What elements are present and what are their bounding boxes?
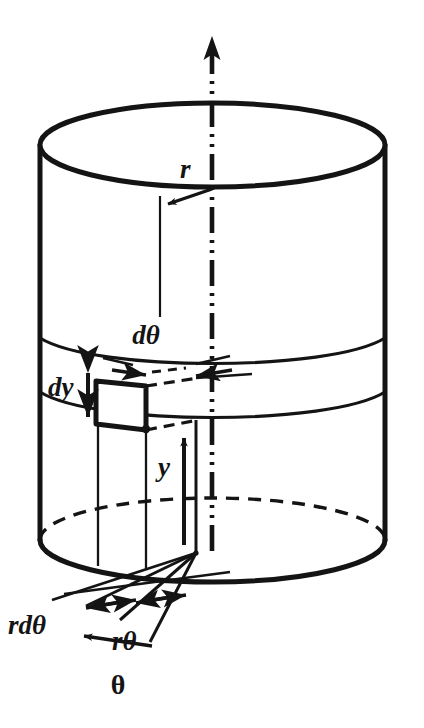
- element-bottom-receding-edge: [146, 420, 198, 430]
- element-top-receding-edge: [146, 378, 198, 386]
- radius-arrow-line: [168, 189, 212, 204]
- cylinder-coordinate-diagram: r: [0, 0, 424, 728]
- element-front-face: [96, 381, 146, 430]
- d-theta-label: dθ: [132, 320, 160, 350]
- r-theta-dim-line-right: [146, 595, 186, 601]
- y-label: y: [155, 452, 171, 482]
- differential-element: [96, 378, 198, 433]
- radius-label: r: [180, 154, 191, 184]
- y-height-indicator: y: [155, 438, 184, 545]
- d-theta-left-arrow: [112, 370, 146, 375]
- dy-indicator: dy: [48, 372, 88, 417]
- band-bottom-curve: [40, 392, 385, 418]
- d-theta-dashed-connector: [152, 368, 186, 372]
- projection-lines: [98, 420, 196, 570]
- diagram-canvas: r: [0, 0, 424, 728]
- d-theta-indicator: dθ: [103, 320, 252, 378]
- rd-theta-dim-line-right: [96, 600, 136, 606]
- rd-theta-label: rdθ: [8, 610, 46, 640]
- theta-label: θ: [111, 669, 126, 700]
- dy-label: dy: [48, 372, 75, 402]
- fan-ray-inner: [120, 553, 196, 620]
